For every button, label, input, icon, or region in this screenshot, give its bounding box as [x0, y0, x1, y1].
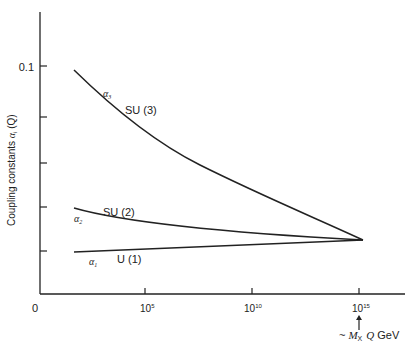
coupling-constants-chart: 0.1 0 105 1010 1015 ~MXQGeV Coupling con…: [0, 0, 413, 344]
x-tick-label-1e15: 1015: [352, 303, 370, 314]
x-axis-label: ~MXQGeV: [339, 329, 400, 342]
alpha3-label: α3: [103, 88, 111, 100]
y-ticks: [40, 66, 47, 251]
alpha1-label: α1: [89, 256, 97, 268]
x-ticks: [145, 288, 359, 294]
su3-label: SU (3): [125, 104, 157, 116]
y-axis-label: Coupling constants αi (Q): [6, 114, 18, 226]
y-tick-label-0.1: 0.1: [19, 61, 34, 73]
mx-arrow-head-icon: [356, 315, 362, 320]
alpha1-u1-curve: [74, 240, 363, 252]
x-tick-label-0: 0: [32, 302, 38, 314]
su2-label: SU (2): [103, 206, 135, 218]
u1-label: U (1): [117, 253, 141, 265]
x-tick-label-1e10: 1010: [244, 303, 262, 314]
x-tick-label-1e5: 105: [140, 303, 155, 314]
alpha2-label: α2: [74, 213, 82, 225]
